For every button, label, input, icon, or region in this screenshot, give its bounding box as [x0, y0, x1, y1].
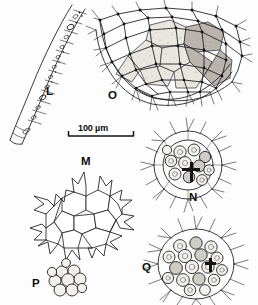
scale-bar-label: 100 µm: [78, 124, 108, 133]
figure-M-plate-colony: [30, 172, 134, 260]
figure-label-Q: Q: [142, 262, 151, 274]
figure-label-L: L: [46, 86, 53, 98]
figure-label-O: O: [108, 90, 117, 102]
figure-P-cell-cluster: [47, 259, 86, 296]
figure-L-filament: [10, 5, 86, 144]
illustration-plate: 100 µm L O M N P Q: [0, 0, 258, 305]
figure-label-M: M: [81, 156, 91, 168]
plate-artwork: [0, 0, 258, 305]
figure-Q-spherical-colony: [144, 216, 248, 305]
figure-label-P: P: [32, 278, 40, 290]
figure-label-N: N: [189, 192, 198, 204]
